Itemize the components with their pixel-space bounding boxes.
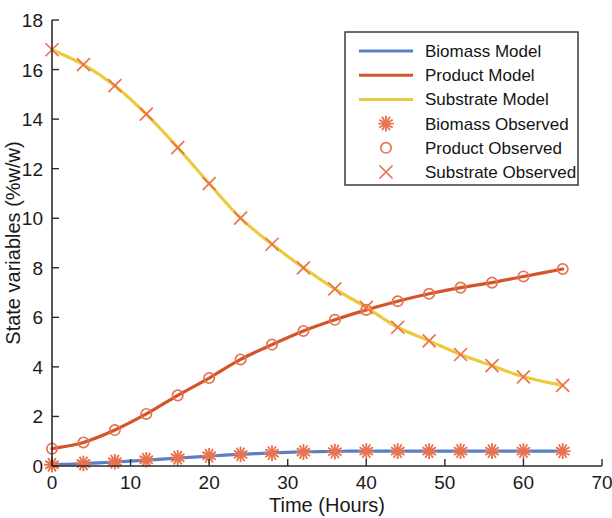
- legend-label: Biomass Observed: [425, 115, 569, 134]
- x-tick-label: 20: [199, 472, 220, 493]
- y-tick-label: 12: [22, 159, 43, 180]
- y-tick-label: 0: [32, 456, 43, 477]
- x-tick-label: 30: [277, 472, 298, 493]
- x-tick-label: 10: [120, 472, 141, 493]
- x-tick-label: 50: [434, 472, 455, 493]
- y-tick-label: 10: [22, 208, 43, 229]
- x-tick-label: 40: [356, 472, 377, 493]
- x-tick-label: 60: [513, 472, 534, 493]
- x-axis-title: Time (Hours): [269, 494, 385, 516]
- y-tick-label: 8: [32, 258, 43, 279]
- legend: Biomass ModelProduct ModelSubstrate Mode…: [345, 32, 578, 185]
- legend-label: Product Observed: [425, 139, 562, 158]
- y-tick-label: 4: [32, 357, 43, 378]
- y-tick-label: 14: [22, 109, 44, 130]
- x-tick-label: 0: [47, 472, 58, 493]
- y-tick-label: 16: [22, 60, 43, 81]
- x-tick-label: 70: [591, 472, 612, 493]
- y-tick-label: 18: [22, 10, 43, 31]
- y-axis-title: State variables (%w/w): [2, 141, 24, 344]
- legend-label: Substrate Observed: [425, 163, 576, 182]
- state-variables-chart: 010203040506070 024681012141618 Time (Ho…: [0, 0, 612, 518]
- legend-label: Biomass Model: [425, 42, 541, 61]
- y-tick-label: 6: [32, 307, 43, 328]
- y-tick-label: 2: [32, 406, 43, 427]
- legend-label: Substrate Model: [425, 90, 549, 109]
- legend-label: Product Model: [425, 66, 535, 85]
